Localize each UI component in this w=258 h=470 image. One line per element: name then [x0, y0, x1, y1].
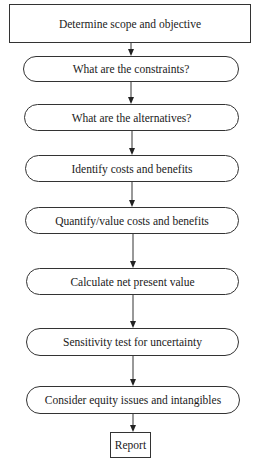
node-label: Identify costs and benefits: [71, 163, 192, 175]
node-label: Calculate net present value: [70, 276, 194, 288]
node-identify-costs-benefits: Identify costs and benefits: [25, 155, 239, 182]
node-constraints: What are the constraints?: [23, 56, 239, 82]
node-net-present-value: Calculate net present value: [26, 268, 239, 295]
node-sensitivity-test: Sensitivity test for uncertainty: [26, 328, 239, 356]
node-label: Report: [115, 439, 146, 451]
node-quantify-costs-benefits: Quantify/value costs and benefits: [25, 207, 239, 234]
node-equity-intangibles: Consider equity issues and intangibles: [26, 386, 240, 414]
node-label: Determine scope and objective: [59, 18, 201, 30]
node-label: Consider equity issues and intangibles: [45, 394, 221, 406]
node-alternatives: What are the alternatives?: [24, 104, 239, 131]
node-determine-scope: Determine scope and objective: [9, 4, 251, 43]
node-label: Sensitivity test for uncertainty: [63, 336, 202, 348]
node-label: What are the alternatives?: [72, 112, 192, 124]
node-report: Report: [110, 432, 151, 458]
node-label: Quantify/value costs and benefits: [55, 215, 209, 227]
node-label: What are the constraints?: [73, 63, 190, 75]
